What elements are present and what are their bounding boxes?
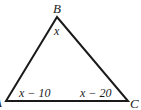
angle-label-b: x xyxy=(53,24,60,38)
vertex-label-b: B xyxy=(53,1,61,16)
angle-label-a: x − 10 xyxy=(18,86,50,100)
vertex-label-c: C xyxy=(130,96,139,110)
angle-label-c: x − 20 xyxy=(79,86,111,100)
vertex-label-a: A xyxy=(0,95,2,110)
triangle-diagram: B x A x − 10 x − 20 C xyxy=(0,0,141,110)
